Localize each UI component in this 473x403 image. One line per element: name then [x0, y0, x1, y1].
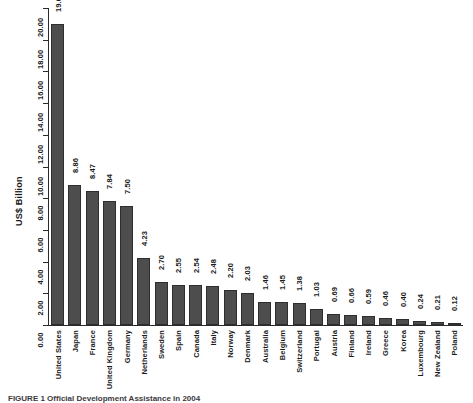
- bar[interactable]: [344, 315, 357, 325]
- bar-value-label: 0.46: [381, 291, 390, 306]
- bar[interactable]: [68, 185, 81, 325]
- bar[interactable]: [327, 314, 340, 325]
- bar[interactable]: [362, 316, 375, 325]
- x-axis-tick-label: Belgium: [277, 330, 286, 360]
- x-axis-labels: United StatesJapanFranceUnited KingdomGe…: [49, 330, 463, 392]
- bar-item[interactable]: 2.20: [222, 8, 239, 325]
- x-axis-tick-label: United Kingdom: [105, 330, 114, 389]
- x-axis-tick-label: Netherlands: [139, 330, 148, 374]
- x-label-slot: Italy: [204, 330, 221, 392]
- y-tick-label: 4.00: [36, 269, 45, 284]
- bar-item[interactable]: 2.48: [204, 8, 221, 325]
- bar-item[interactable]: 4.23: [135, 8, 152, 325]
- bar-value-label: 0.12: [450, 296, 459, 311]
- bar-series: 19.008.868.477.847.504.232.702.552.542.4…: [49, 8, 463, 325]
- x-axis-tick-label: Portugal: [312, 330, 321, 361]
- bar[interactable]: [379, 318, 392, 325]
- x-axis-tick-label: Norway: [226, 330, 235, 358]
- bar[interactable]: [275, 302, 288, 325]
- bar[interactable]: [155, 282, 168, 325]
- bar-item[interactable]: 19.00: [49, 8, 66, 325]
- bar-item[interactable]: 2.03: [239, 8, 256, 325]
- x-label-slot: United States: [49, 330, 66, 392]
- bar-item[interactable]: 0.40: [394, 8, 411, 325]
- bar[interactable]: [448, 323, 461, 325]
- x-axis-tick-label: Japan: [70, 330, 79, 352]
- x-label-slot: Denmark: [239, 330, 256, 392]
- y-tick-label: 8.00: [36, 206, 45, 221]
- bar-value-label: 0.21: [433, 295, 442, 310]
- bar-value-label: 0.66: [346, 288, 355, 303]
- bar-item[interactable]: 1.03: [308, 8, 325, 325]
- bar[interactable]: [51, 24, 64, 325]
- y-tick-label: 6.00: [36, 237, 45, 252]
- bar-value-label: 2.54: [191, 258, 200, 273]
- bar[interactable]: [241, 293, 254, 325]
- x-axis-tick-label: United States: [53, 330, 62, 379]
- x-label-slot: Germany: [118, 330, 135, 392]
- bar[interactable]: [172, 285, 185, 325]
- bar-item[interactable]: 0.46: [377, 8, 394, 325]
- bar[interactable]: [189, 285, 202, 325]
- bar[interactable]: [258, 302, 271, 325]
- x-label-slot: Canada: [187, 330, 204, 392]
- bar[interactable]: [293, 303, 306, 325]
- bar-item[interactable]: 0.21: [429, 8, 446, 325]
- bar[interactable]: [206, 286, 219, 325]
- bar-value-label: 7.50: [122, 179, 131, 194]
- x-axis-tick-label: Greece: [381, 330, 390, 356]
- x-axis-tick-label: Poland: [450, 330, 459, 356]
- bar-value-label: 7.84: [105, 174, 114, 189]
- x-axis-tick-label: France: [88, 330, 97, 355]
- bar-item[interactable]: 0.59: [360, 8, 377, 325]
- x-label-slot: Norway: [222, 330, 239, 392]
- x-label-slot: Spain: [170, 330, 187, 392]
- x-axis-tick-label: Korea: [398, 330, 407, 352]
- x-axis-tick-label: Finland: [346, 330, 355, 357]
- bar-item[interactable]: 7.84: [101, 8, 118, 325]
- bar[interactable]: [310, 309, 323, 325]
- bar-item[interactable]: 7.50: [118, 8, 135, 325]
- bar[interactable]: [431, 322, 444, 325]
- x-axis-tick-label: Spain: [174, 330, 183, 351]
- bar-value-label: 0.24: [415, 294, 424, 309]
- bar-item[interactable]: 0.24: [411, 8, 428, 325]
- bar-value-label: 0.40: [398, 292, 407, 307]
- bar-item[interactable]: 8.86: [66, 8, 83, 325]
- bar[interactable]: [413, 321, 426, 325]
- bar[interactable]: [103, 201, 116, 325]
- bar-value-label: 2.48: [208, 259, 217, 274]
- bar-value-label: 2.03: [243, 266, 252, 281]
- bar-value-label: 1.46: [260, 275, 269, 290]
- bar-item[interactable]: 1.46: [256, 8, 273, 325]
- bar[interactable]: [86, 191, 99, 325]
- bar-value-label: 0.69: [329, 287, 338, 302]
- bar-value-label: 8.86: [70, 158, 79, 173]
- x-label-slot: Portugal: [308, 330, 325, 392]
- bar[interactable]: [396, 319, 409, 325]
- bar-item[interactable]: 2.55: [170, 8, 187, 325]
- bar-item[interactable]: 8.47: [84, 8, 101, 325]
- bar-item[interactable]: 1.38: [291, 8, 308, 325]
- bar-item[interactable]: 0.66: [342, 8, 359, 325]
- bar[interactable]: [120, 206, 133, 325]
- bar-value-label: 8.47: [88, 164, 97, 179]
- x-label-slot: Korea: [394, 330, 411, 392]
- x-axis-tick-label: Luxembourg: [415, 330, 424, 376]
- x-axis-tick-label: Switzerland: [295, 330, 304, 373]
- y-tick-label: 14.00: [36, 113, 45, 132]
- bar[interactable]: [224, 290, 237, 325]
- bar-item[interactable]: 2.70: [153, 8, 170, 325]
- bar-item[interactable]: 0.12: [446, 8, 463, 325]
- x-label-slot: France: [84, 330, 101, 392]
- bar-item[interactable]: 2.54: [187, 8, 204, 325]
- bar-item[interactable]: 0.69: [325, 8, 342, 325]
- bar-item[interactable]: 1.45: [273, 8, 290, 325]
- y-axis-title: US$ Billion: [4, 0, 14, 118]
- x-axis-tick-label: Denmark: [243, 330, 252, 363]
- x-axis-tick-label: Germany: [122, 330, 131, 363]
- bar[interactable]: [137, 258, 150, 325]
- bar-value-label: 2.70: [157, 255, 166, 270]
- x-label-slot: Switzerland: [291, 330, 308, 392]
